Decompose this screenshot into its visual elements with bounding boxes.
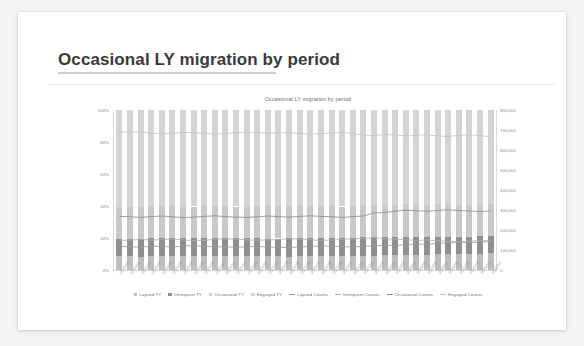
chart-container: Occasional LY migration by period 100%80… xyxy=(58,94,558,314)
line-series xyxy=(119,210,490,218)
page-title: Occasional LY migration by period xyxy=(58,50,340,70)
y-tick-right: 100,000 xyxy=(500,248,544,253)
y-tick-right: 400,000 xyxy=(500,188,544,193)
line-series xyxy=(119,132,490,137)
y-tick-right: 700,000 xyxy=(500,128,544,133)
y-axis-right-line xyxy=(496,110,497,271)
y-tick-right: 0 xyxy=(500,268,544,273)
legend-label: Infrequent Counts xyxy=(343,292,380,297)
legend-item[interactable]: Infrequent Counts xyxy=(335,292,380,297)
legend-item[interactable]: Engaged TY xyxy=(251,292,282,297)
legend-item[interactable]: Engaged Counts xyxy=(440,292,482,297)
y-tick-left: 40% xyxy=(69,204,109,209)
y-tick-left: 100% xyxy=(69,108,109,113)
y-tick-left: 0% xyxy=(69,268,109,273)
legend-line-icon xyxy=(440,294,446,295)
legend-item[interactable]: Infrequent TY xyxy=(168,292,201,297)
legend-swatch-icon xyxy=(168,293,172,297)
plot-area xyxy=(114,110,496,270)
legend-item[interactable]: Lapsed TY xyxy=(134,292,162,297)
y-tick-left: 20% xyxy=(69,236,109,241)
y-tick-right: 500,000 xyxy=(500,168,544,173)
legend-item[interactable]: Occasional TY xyxy=(209,292,244,297)
line-series xyxy=(119,238,490,242)
slide-card: Occasional LY migration by period Occasi… xyxy=(18,12,566,330)
header-divider xyxy=(48,84,556,85)
legend-label: Lapsed Counts xyxy=(297,292,328,297)
legend-label: Occasional Counts xyxy=(395,292,434,297)
title-underline xyxy=(58,72,276,74)
legend-swatch-icon xyxy=(251,293,255,297)
legend-label: Engaged Counts xyxy=(448,292,482,297)
legend-line-icon xyxy=(335,294,341,295)
y-tick-right: 800,000 xyxy=(500,108,544,113)
page-root: Occasional LY migration by period Occasi… xyxy=(0,0,584,346)
chart-title: Occasional LY migration by period xyxy=(58,96,558,102)
legend-label: Engaged TY xyxy=(257,292,282,297)
chart-legend: Lapsed TYInfrequent TYOccasional TYEngag… xyxy=(58,292,558,297)
legend-label: Infrequent TY xyxy=(174,292,202,297)
legend-swatch-icon xyxy=(209,293,213,297)
line-series xyxy=(119,242,490,248)
legend-swatch-icon xyxy=(134,293,138,297)
legend-line-icon xyxy=(387,294,393,295)
y-tick-left: 60% xyxy=(69,172,109,177)
y-tick-right: 300,000 xyxy=(500,208,544,213)
line-series-layer xyxy=(114,110,496,270)
legend-label: Occasional TY xyxy=(214,292,244,297)
legend-label: Lapsed TY xyxy=(139,292,161,297)
legend-item[interactable]: Occasional Counts xyxy=(387,292,434,297)
y-tick-right: 200,000 xyxy=(500,228,544,233)
legend-line-icon xyxy=(289,294,295,295)
y-tick-right: 600,000 xyxy=(500,148,544,153)
legend-item[interactable]: Lapsed Counts xyxy=(289,292,328,297)
y-tick-left: 80% xyxy=(69,140,109,145)
